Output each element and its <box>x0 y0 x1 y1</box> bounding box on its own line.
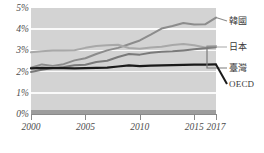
leader-line-OECD <box>216 64 227 84</box>
series-label-OECD: OECD <box>229 79 254 89</box>
leader-line-韓國 <box>216 18 227 21</box>
series-label-日本: 日本 <box>229 42 247 52</box>
line-chart: 5%4%3%2%1%0% 20002005201020152017 韓國日本臺灣… <box>0 0 264 153</box>
series-label-韓國: 韓國 <box>229 16 247 26</box>
series-label-臺灣: 臺灣 <box>229 63 247 73</box>
leader-lines <box>0 0 264 153</box>
